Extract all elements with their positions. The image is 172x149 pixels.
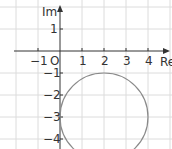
x-tick-label-2: 2: [101, 55, 109, 67]
x-tick-label-4: 4: [145, 55, 153, 67]
grid-lines: [0, 0, 172, 149]
y-tick-label-neg4: −4: [43, 133, 61, 145]
x-axis-arrow-icon: [163, 48, 170, 54]
y-axis-arrow-icon: [57, 5, 63, 12]
y-tick-label-neg2: −2: [43, 89, 61, 101]
y-tick-label-neg1: −1: [43, 67, 61, 79]
x-tick-label-1: 1: [79, 55, 87, 67]
complex-plane-plot: [0, 0, 172, 149]
y-axis-label: Im: [42, 6, 57, 18]
x-tick-label-3: 3: [123, 55, 131, 67]
y-tick-label-neg3: −3: [43, 111, 61, 123]
x-axis-label: Re: [160, 56, 172, 68]
y-tick-label-1: 1: [50, 23, 58, 35]
